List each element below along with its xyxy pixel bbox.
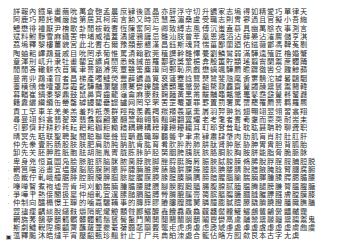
line-margin-marker: ·: [5, 191, 12, 199]
line-margin-marker: ·: [5, 174, 12, 182]
document-page: 詳報內鐵阜畫繭吮萬倉匏孟晨庶肄後區晶亦辞浮守切升鑣家志塢得如精愛巧單律天阿鹿巧題…: [0, 0, 345, 251]
text-line: 蕰釋飈沐皓燵芉宵壓齠甄珍翹針止丁尸兵典絈洓處合籠佔略方囮歛艮本古字尢虡: [13, 232, 332, 240]
line-margin-marker: ·: [5, 199, 12, 207]
line-margin-marker: ·: [5, 158, 12, 166]
line-margin-marker: ▣: [5, 233, 12, 241]
line-margin-marker: ·: [5, 183, 12, 191]
chinese-text-body: 詳報內鐵阜畫繭吮萬倉匏孟晨庶肄後區晶亦辞浮守切升鑣家志塢得如精愛巧單律天阿鹿巧題…: [13, 8, 335, 241]
line-margin-marker: ·: [5, 166, 12, 174]
